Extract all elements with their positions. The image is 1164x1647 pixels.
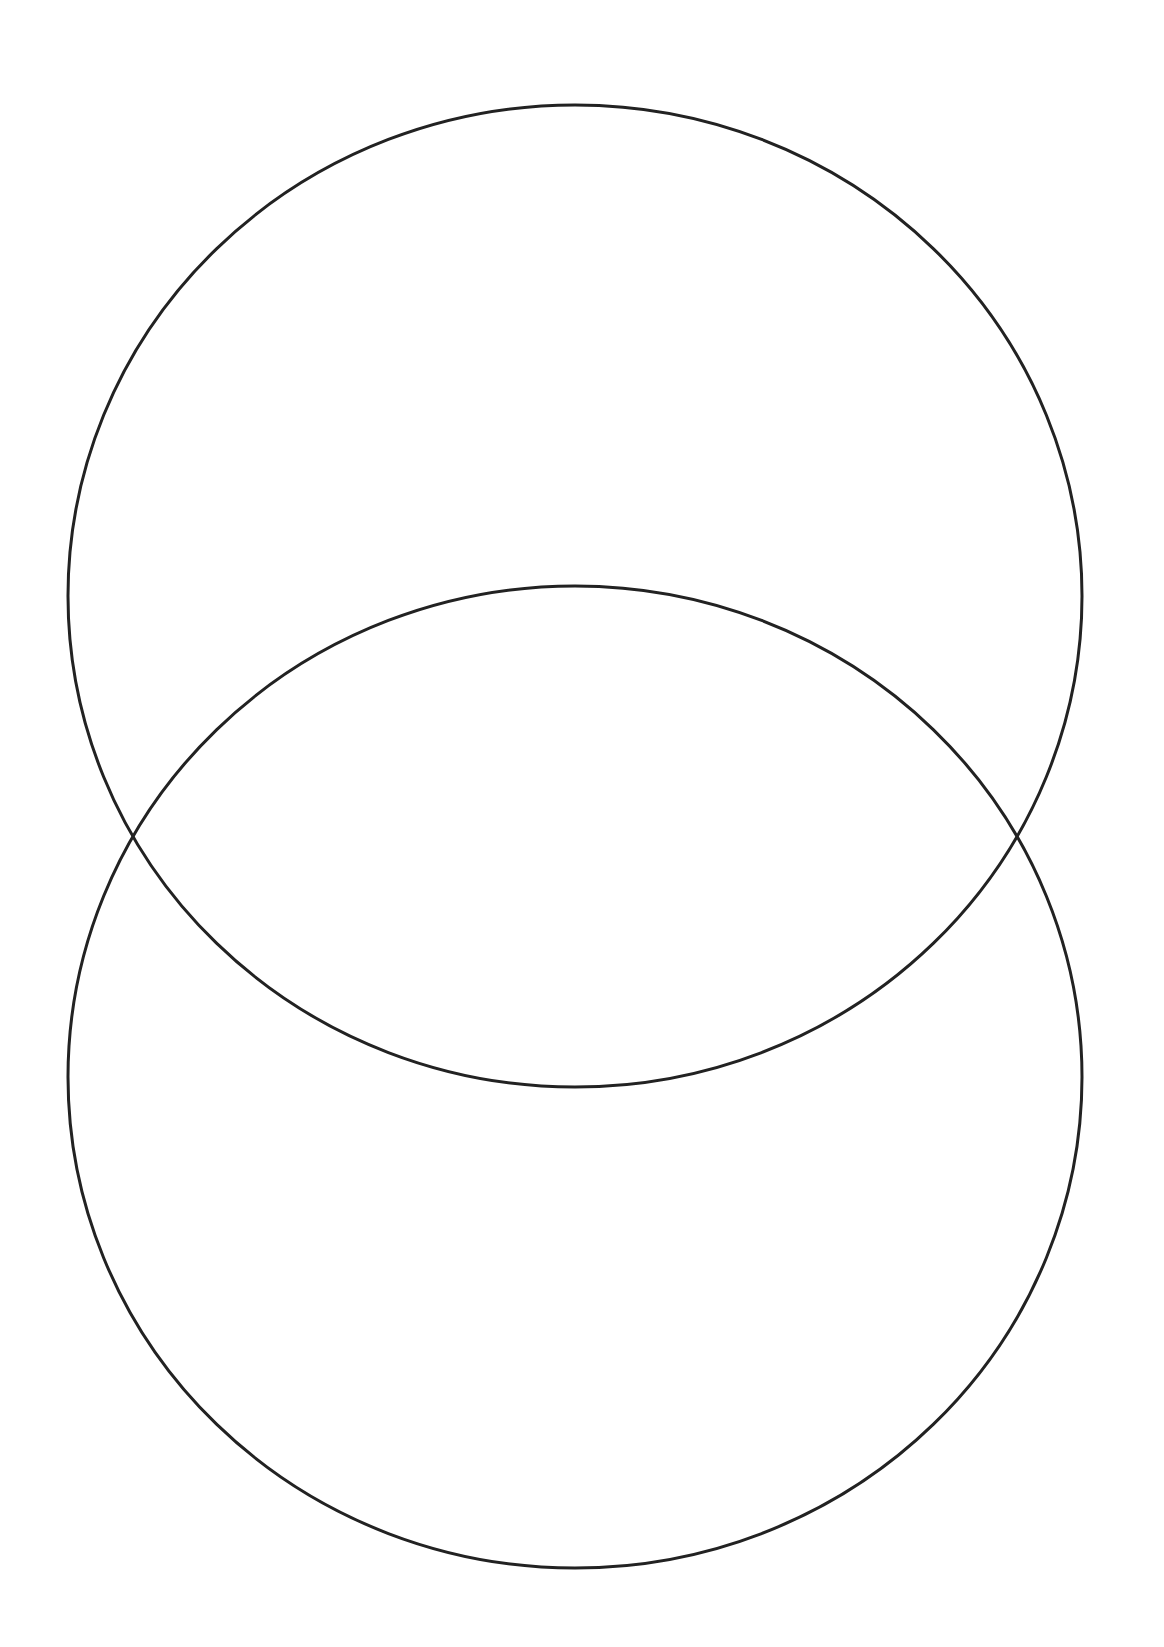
venn-diagram: [0, 0, 1164, 1647]
venn-circle-bottom: [68, 586, 1082, 1568]
venn-circle-top: [68, 105, 1082, 1087]
